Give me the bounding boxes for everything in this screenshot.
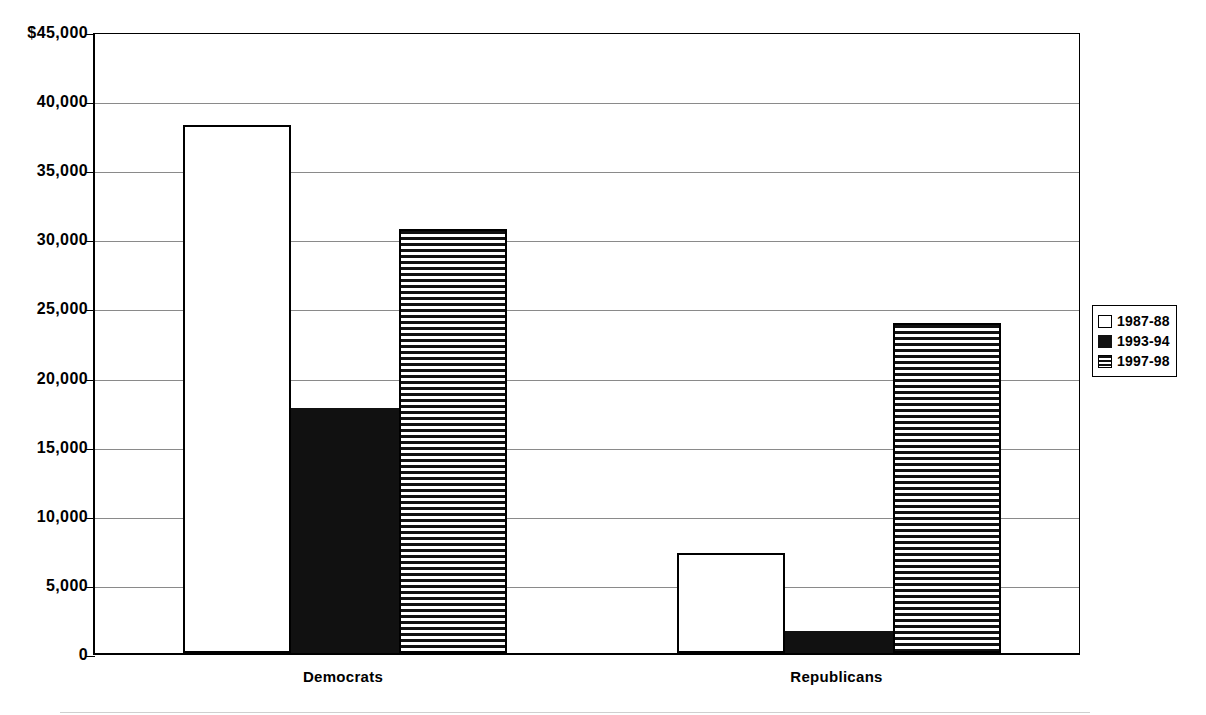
y-axis-tick-mark (86, 310, 95, 311)
y-axis-tick-label: 15,000 (4, 439, 88, 457)
legend-item: 1987-88 (1098, 311, 1170, 331)
y-axis-tick-label: $45,000 (4, 24, 88, 42)
legend-swatch-solid-icon (1098, 335, 1112, 348)
legend-swatch-striped-icon (1098, 355, 1112, 368)
legend-item-label: 1987-88 (1117, 313, 1170, 329)
y-axis-tick-label: 40,000 (4, 93, 88, 111)
plot-area (93, 33, 1080, 655)
bar (785, 631, 893, 653)
x-axis-category-label: Republicans (790, 668, 883, 685)
legend-swatch-open-icon (1098, 315, 1112, 328)
bar (291, 408, 399, 653)
bar-chart: $45,00040,00035,00030,00025,00020,00015,… (0, 0, 1206, 715)
gridline (95, 103, 1079, 104)
y-axis-tick-mark (86, 241, 95, 242)
y-axis-tick-labels: $45,00040,00035,00030,00025,00020,00015,… (0, 0, 88, 715)
y-axis-tick-mark (86, 103, 95, 104)
y-axis-tick-mark (86, 172, 95, 173)
y-axis-tick-mark (86, 587, 95, 588)
y-axis-tick-mark (86, 518, 95, 519)
bar (893, 323, 1001, 653)
y-axis-tick-label: 20,000 (4, 370, 88, 388)
bar (183, 125, 291, 653)
chart-legend: 1987-881993-941997-98 (1092, 305, 1177, 377)
page-edge-line (60, 712, 1090, 713)
y-axis-tick-label: 0 (4, 646, 88, 664)
y-axis-tick-mark (86, 380, 95, 381)
y-axis-tick-mark (86, 34, 95, 35)
y-axis-tick-mark (86, 656, 95, 657)
legend-item: 1997-98 (1098, 351, 1170, 371)
x-axis-category-label: Democrats (303, 668, 383, 685)
bar (399, 229, 507, 653)
y-axis-tick-label: 30,000 (4, 231, 88, 249)
legend-item-label: 1993-94 (1117, 333, 1170, 349)
y-axis-tick-label: 10,000 (4, 508, 88, 526)
y-axis-tick-label: 5,000 (4, 577, 88, 595)
legend-item: 1993-94 (1098, 331, 1170, 351)
y-axis-tick-mark (86, 449, 95, 450)
legend-item-label: 1997-98 (1117, 353, 1170, 369)
y-axis-tick-label: 35,000 (4, 162, 88, 180)
bar (677, 553, 785, 653)
y-axis-tick-label: 25,000 (4, 300, 88, 318)
